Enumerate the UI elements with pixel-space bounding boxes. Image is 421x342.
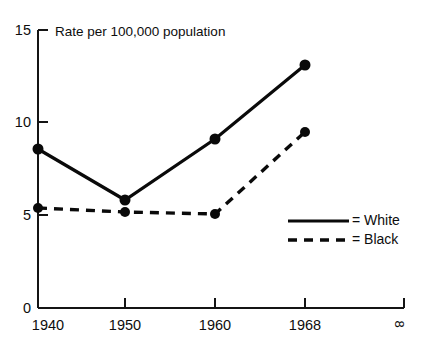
legend-item-white: = White <box>288 212 400 228</box>
y-tick-label-15: 15 <box>15 22 31 38</box>
series-black <box>33 127 310 219</box>
data-point-white-1960 <box>210 134 221 145</box>
y-tick-labels: 15 10 5 0 <box>15 22 31 316</box>
chart-canvas: 15 10 5 0 1940 1950 1960 1968 8 Rate per… <box>0 0 421 342</box>
legend-label-black: = Black <box>352 231 399 247</box>
series-white-line <box>38 65 305 200</box>
x-tick-label-1968: 1968 <box>289 317 321 333</box>
data-point-black-1968 <box>300 127 310 137</box>
legend-item-black: = Black <box>288 231 399 247</box>
x-tick-label-1940: 1940 <box>32 317 64 333</box>
y-tick-label-10: 10 <box>15 114 31 130</box>
axes-group <box>38 30 404 308</box>
y-tick-label-5: 5 <box>23 207 31 223</box>
series-white <box>33 60 311 206</box>
x-tick-label-1950: 1950 <box>109 317 141 333</box>
line-chart: 15 10 5 0 1940 1950 1960 1968 8 Rate per… <box>0 0 421 342</box>
y-tick-label-0: 0 <box>23 300 31 316</box>
data-point-black-1950 <box>120 207 130 217</box>
x-tick-label-1960: 1960 <box>199 317 231 333</box>
x-tick-labels: 1940 1950 1960 1968 8 <box>32 317 407 333</box>
data-point-black-1960 <box>210 209 220 219</box>
chart-legend: = White = Black <box>288 212 400 247</box>
data-point-white-1968 <box>300 60 311 71</box>
chart-title: Rate per 100,000 population <box>55 24 225 39</box>
data-point-white-1940 <box>33 144 44 155</box>
data-point-black-1940 <box>33 203 43 213</box>
legend-label-white: = White <box>352 212 400 228</box>
x-axis-end-symbol: 8 <box>392 320 407 327</box>
data-point-white-1950 <box>120 195 131 206</box>
